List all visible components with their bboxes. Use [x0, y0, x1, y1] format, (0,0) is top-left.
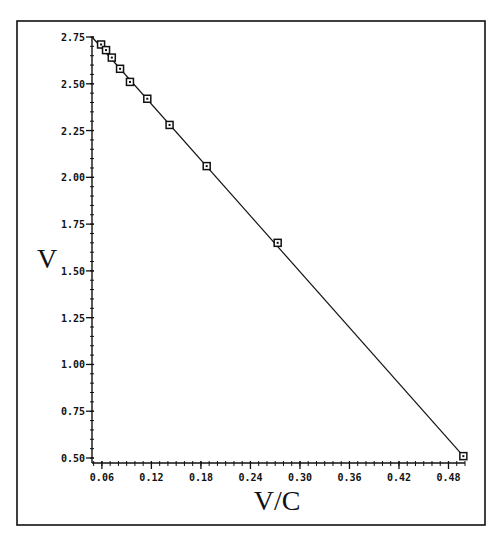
- y-tick-label: 1.25: [61, 313, 85, 324]
- data-point-center: [277, 242, 279, 244]
- y-tick-label: 2.00: [61, 172, 85, 183]
- y-tick-label: 0.75: [61, 406, 85, 417]
- y-axis-title: V: [37, 243, 57, 274]
- data-point-center: [462, 455, 464, 457]
- y-tick-label: 2.50: [61, 79, 85, 90]
- chart-frame: [17, 21, 485, 525]
- x-tick-label: 0.18: [189, 472, 213, 483]
- data-point-center: [100, 43, 102, 45]
- y-tick-label: 2.25: [61, 126, 85, 137]
- y-tick-label: 1.75: [61, 219, 85, 230]
- data-point-center: [129, 81, 131, 83]
- data-point-center: [146, 98, 148, 100]
- axis-ticks: 0.500.751.001.251.501.752.002.252.502.75…: [61, 32, 465, 483]
- x-tick-label: 0.12: [139, 472, 163, 483]
- data-point-center: [111, 57, 113, 59]
- data-point-center: [206, 165, 208, 167]
- x-tick-label: 0.30: [288, 472, 312, 483]
- y-tick-label: 0.50: [61, 453, 85, 464]
- y-tick-label: 1.00: [61, 359, 85, 370]
- x-tick-label: 0.36: [337, 472, 361, 483]
- y-tick-label: 2.75: [61, 32, 85, 43]
- x-tick-label: 0.48: [436, 472, 460, 483]
- data-point-center: [169, 124, 171, 126]
- x-tick-label: 0.06: [90, 472, 114, 483]
- x-axis-title: V/C: [254, 485, 301, 516]
- chart: 0.500.751.001.251.501.752.002.252.502.75…: [0, 0, 503, 541]
- y-tick-label: 1.50: [61, 266, 85, 277]
- data-point-center: [105, 49, 107, 51]
- data-point-center: [119, 68, 121, 70]
- x-tick-label: 0.24: [238, 472, 262, 483]
- x-tick-label: 0.42: [387, 472, 411, 483]
